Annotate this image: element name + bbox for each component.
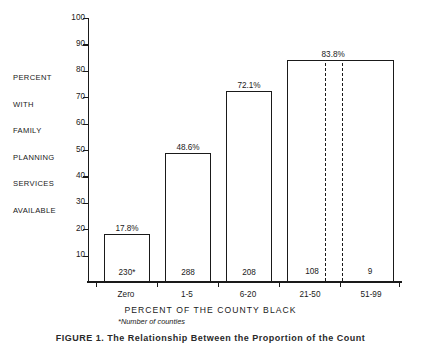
bar-count-label: 108 bbox=[305, 267, 319, 276]
figure-caption: FIGURE 1. The Relationship Between the P… bbox=[0, 333, 421, 343]
bar-zero[interactable]: 17.8% 230* bbox=[104, 234, 150, 281]
x-axis-title: PERCENT OF THE COUNTY BLACK bbox=[0, 305, 421, 315]
bar-1-5[interactable]: 48.6% 288 bbox=[165, 153, 211, 281]
x-category-label: Zero bbox=[118, 290, 135, 299]
bar-21-50-and-51-99-merged[interactable]: 83.8% 108 9 bbox=[287, 60, 394, 281]
x-tick-boundary bbox=[399, 282, 400, 287]
bar-value-label: 83.8% bbox=[322, 50, 345, 59]
bar-count-label: 288 bbox=[181, 268, 195, 277]
bar-value-label: 72.1% bbox=[237, 81, 260, 90]
y-axis-title-line: SERVICES bbox=[13, 180, 75, 188]
y-axis-title-line: PERCENT bbox=[13, 74, 75, 82]
bar-value-label: 17.8% bbox=[115, 224, 138, 233]
x-tick-boundary bbox=[218, 282, 219, 287]
bar-count-label: 9 bbox=[368, 267, 373, 276]
x-category-label: 21-50 bbox=[300, 290, 321, 299]
x-tick-boundary bbox=[279, 282, 280, 287]
x-category-label: 1-5 bbox=[181, 290, 193, 299]
y-axis-title-line: FAMILY bbox=[13, 127, 75, 135]
bar-count-label: 230* bbox=[119, 268, 136, 277]
plot-area: 100 90 80 70 60 50 40 30 20 10 17.8% 230… bbox=[88, 18, 400, 282]
x-category-label: 51-99 bbox=[361, 290, 382, 299]
x-tick-boundary bbox=[157, 282, 158, 287]
x-tick-boundary bbox=[340, 282, 341, 287]
dashed-divider-left bbox=[325, 63, 326, 281]
y-axis-line bbox=[88, 18, 89, 282]
y-axis-title-line: PLANNING bbox=[13, 154, 75, 162]
x-category-label: 6-20 bbox=[240, 290, 256, 299]
x-tick-boundary bbox=[96, 282, 97, 287]
x-axis-line bbox=[87, 281, 402, 283]
footnote-number-of-counties: *Number of counties bbox=[118, 317, 185, 326]
bar-6-20[interactable]: 72.1% 208 bbox=[226, 91, 272, 281]
y-axis-title: PERCENT WITH FAMILY PLANNING SERVICES AV… bbox=[13, 74, 75, 215]
bar-count-label: 208 bbox=[242, 268, 256, 277]
bar-value-label: 48.6% bbox=[176, 143, 199, 152]
y-axis-title-line: AVAILABLE bbox=[13, 207, 75, 215]
dashed-divider-right bbox=[342, 63, 343, 281]
y-axis-title-line: WITH bbox=[13, 101, 75, 109]
